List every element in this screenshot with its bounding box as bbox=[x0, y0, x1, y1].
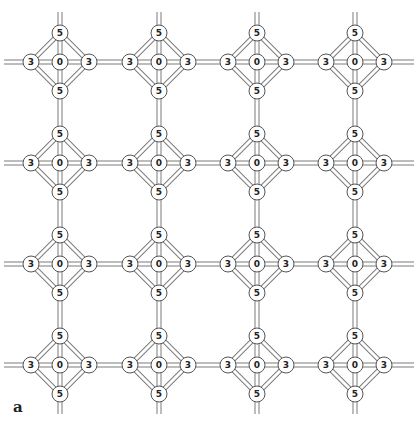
node-label: 3 bbox=[185, 360, 191, 370]
node-right: 3 bbox=[81, 155, 97, 171]
node-right: 3 bbox=[376, 54, 392, 70]
node-left: 3 bbox=[220, 155, 236, 171]
node-label: 3 bbox=[28, 158, 34, 168]
node-label: 3 bbox=[127, 158, 133, 168]
node-right: 3 bbox=[180, 54, 196, 70]
node-bottom: 5 bbox=[52, 83, 68, 99]
node-label: 3 bbox=[381, 158, 387, 168]
node-top: 5 bbox=[249, 25, 265, 41]
node-label: 0 bbox=[57, 57, 63, 67]
node-top: 5 bbox=[347, 126, 363, 142]
node-bottom: 5 bbox=[347, 386, 363, 402]
node-label: 0 bbox=[156, 259, 162, 269]
node-bottom: 5 bbox=[151, 83, 167, 99]
panel-label: a bbox=[13, 398, 23, 416]
node-bottom: 5 bbox=[249, 285, 265, 301]
node-center: 0 bbox=[249, 54, 265, 70]
node-label: 5 bbox=[57, 28, 63, 38]
node-top: 5 bbox=[151, 227, 167, 243]
lattice-diagram: 0553305533055330553305533055330553305533… bbox=[0, 0, 419, 425]
node-label: 5 bbox=[352, 389, 358, 399]
node-bottom: 5 bbox=[151, 184, 167, 200]
node-label: 3 bbox=[86, 158, 92, 168]
node-label: 5 bbox=[352, 230, 358, 240]
node-label: 3 bbox=[86, 57, 92, 67]
node-label: 5 bbox=[254, 230, 260, 240]
node-label: 3 bbox=[323, 158, 329, 168]
node-label: 0 bbox=[57, 158, 63, 168]
node-label: 3 bbox=[225, 259, 231, 269]
node-right: 3 bbox=[81, 54, 97, 70]
node-label: 0 bbox=[352, 57, 358, 67]
node-label: 3 bbox=[381, 360, 387, 370]
node-center: 0 bbox=[52, 357, 68, 373]
node-label: 0 bbox=[57, 259, 63, 269]
node-right: 3 bbox=[81, 256, 97, 272]
node-left: 3 bbox=[318, 155, 334, 171]
node-bottom: 5 bbox=[249, 83, 265, 99]
node-top: 5 bbox=[347, 227, 363, 243]
node-bottom: 5 bbox=[249, 184, 265, 200]
node-right: 3 bbox=[278, 54, 294, 70]
node-label: 3 bbox=[28, 259, 34, 269]
node-label: 5 bbox=[57, 389, 63, 399]
node-bottom: 5 bbox=[151, 386, 167, 402]
node-right: 3 bbox=[376, 155, 392, 171]
node-left: 3 bbox=[23, 256, 39, 272]
node-right: 3 bbox=[376, 357, 392, 373]
node-bottom: 5 bbox=[249, 386, 265, 402]
node-label: 0 bbox=[156, 158, 162, 168]
node-label: 0 bbox=[352, 360, 358, 370]
node-label: 5 bbox=[254, 331, 260, 341]
node-top: 5 bbox=[249, 227, 265, 243]
node-label: 5 bbox=[156, 331, 162, 341]
node-label: 3 bbox=[283, 259, 289, 269]
node-left: 3 bbox=[23, 155, 39, 171]
node-label: 5 bbox=[254, 389, 260, 399]
node-center: 0 bbox=[151, 155, 167, 171]
node-label: 5 bbox=[57, 288, 63, 298]
node-center: 0 bbox=[151, 357, 167, 373]
node-top: 5 bbox=[52, 126, 68, 142]
node-top: 5 bbox=[347, 328, 363, 344]
node-label: 5 bbox=[57, 230, 63, 240]
node-left: 3 bbox=[122, 54, 138, 70]
node-center: 0 bbox=[52, 54, 68, 70]
node-top: 5 bbox=[52, 328, 68, 344]
node-right: 3 bbox=[180, 357, 196, 373]
node-label: 5 bbox=[57, 86, 63, 96]
node-label: 3 bbox=[28, 57, 34, 67]
node-top: 5 bbox=[249, 126, 265, 142]
node-label: 5 bbox=[156, 230, 162, 240]
node-label: 3 bbox=[127, 259, 133, 269]
node-right: 3 bbox=[278, 357, 294, 373]
node-top: 5 bbox=[249, 328, 265, 344]
node-label: 0 bbox=[254, 259, 260, 269]
node-top: 5 bbox=[151, 328, 167, 344]
node-center: 0 bbox=[249, 357, 265, 373]
node-label: 5 bbox=[156, 28, 162, 38]
node-label: 5 bbox=[352, 86, 358, 96]
lattice-bars bbox=[4, 12, 414, 414]
node-label: 5 bbox=[254, 28, 260, 38]
node-left: 3 bbox=[122, 256, 138, 272]
node-label: 0 bbox=[352, 259, 358, 269]
node-right: 3 bbox=[180, 155, 196, 171]
node-label: 5 bbox=[57, 187, 63, 197]
node-left: 3 bbox=[318, 357, 334, 373]
node-label: 0 bbox=[352, 158, 358, 168]
node-label: 3 bbox=[323, 57, 329, 67]
node-label: 5 bbox=[156, 129, 162, 139]
node-center: 0 bbox=[249, 155, 265, 171]
node-right: 3 bbox=[180, 256, 196, 272]
node-top: 5 bbox=[151, 126, 167, 142]
node-center: 0 bbox=[347, 155, 363, 171]
node-left: 3 bbox=[220, 256, 236, 272]
node-label: 0 bbox=[156, 57, 162, 67]
node-label: 3 bbox=[86, 259, 92, 269]
node-bottom: 5 bbox=[347, 184, 363, 200]
node-center: 0 bbox=[151, 54, 167, 70]
node-label: 5 bbox=[352, 28, 358, 38]
node-top: 5 bbox=[52, 227, 68, 243]
node-label: 0 bbox=[254, 158, 260, 168]
